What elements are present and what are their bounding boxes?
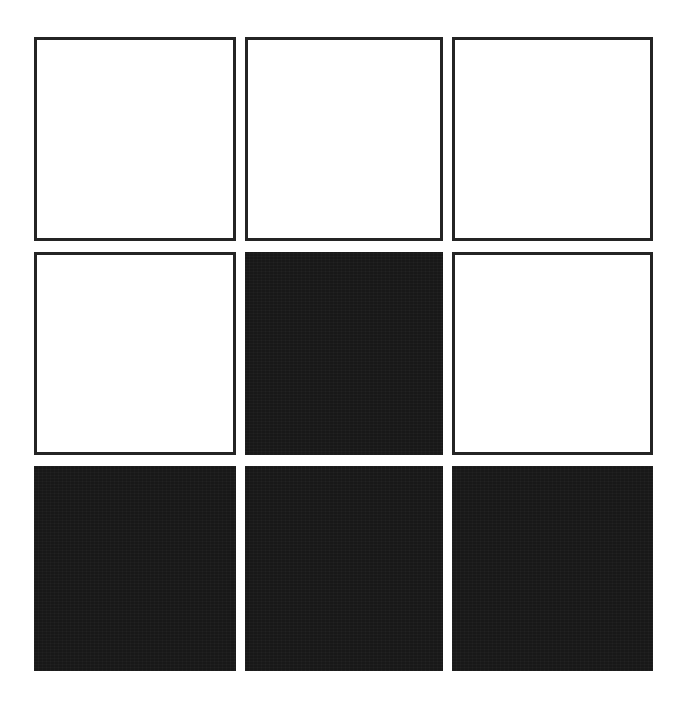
grid-cell-r2c2[interactable]: [245, 252, 443, 455]
grid-cell-r2c1[interactable]: [34, 252, 236, 455]
grid-cell-r1c1[interactable]: [34, 37, 236, 241]
grid-cell-r2c3[interactable]: [452, 252, 653, 455]
grid-cell-r1c2[interactable]: [245, 37, 443, 241]
grid-canvas: [0, 0, 697, 706]
grid-cell-r1c3[interactable]: [452, 37, 653, 241]
tile-grid: [34, 37, 653, 670]
grid-cell-r3c1[interactable]: [34, 466, 236, 671]
grid-cell-r3c2[interactable]: [245, 466, 443, 671]
grid-cell-r3c3[interactable]: [452, 466, 653, 671]
